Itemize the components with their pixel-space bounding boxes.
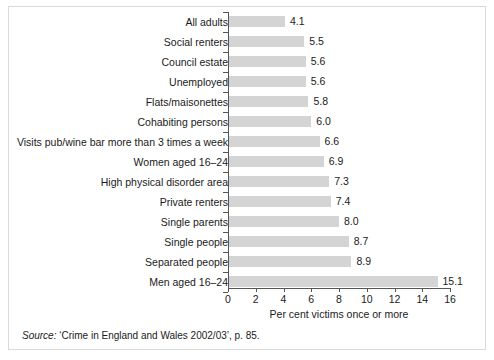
bar: [228, 56, 306, 67]
bar-row: Separated people8.9: [16, 252, 478, 272]
bar-row: Women aged 16–246.9: [16, 152, 478, 172]
y-axis-tick: [223, 152, 228, 153]
bar-value-label: 6.9: [329, 152, 344, 172]
bar-value-label: 6.0: [316, 112, 331, 132]
bar-value-label: 7.3: [334, 172, 349, 192]
y-axis-tick: [223, 172, 228, 173]
category-label: High physical disorder area: [101, 172, 228, 192]
bar-track: 6.6: [228, 132, 478, 152]
bar-row: Social renters5.5: [16, 32, 478, 52]
bar-track: 5.5: [228, 32, 478, 52]
category-label: Visits pub/wine bar more than 3 times a …: [17, 132, 228, 152]
x-axis-tick: [311, 288, 312, 292]
y-axis-tick: [223, 272, 228, 273]
x-axis-tick: [450, 288, 451, 292]
bar-row: Unemployed5.6: [16, 72, 478, 92]
y-axis-tick: [223, 52, 228, 53]
bar-track: 7.4: [228, 192, 478, 212]
bar: [228, 96, 308, 107]
bar: [228, 176, 329, 187]
bar-row: All adults4.1: [16, 12, 478, 32]
chart-figure: All adults4.1Social renters5.5Council es…: [0, 0, 494, 360]
bar-row: Single people8.7: [16, 232, 478, 252]
bar-row: Cohabiting persons6.0: [16, 112, 478, 132]
bar-value-label: 5.5: [309, 32, 324, 52]
bar-track: 5.8: [228, 92, 478, 112]
bar: [228, 36, 304, 47]
bar: [228, 256, 351, 267]
source-label: Source:: [22, 330, 56, 341]
x-axis-tick-label: 6: [308, 293, 314, 305]
category-label: Social renters: [164, 32, 228, 52]
category-label: Council estate: [161, 52, 228, 72]
bar-row: High physical disorder area7.3: [16, 172, 478, 192]
y-axis-tick: [223, 132, 228, 133]
bar-row: Private renters7.4: [16, 192, 478, 212]
bar-rows: All adults4.1Social renters5.5Council es…: [16, 12, 478, 292]
bar: [228, 116, 311, 127]
category-label: All adults: [185, 12, 228, 32]
y-axis-tick: [223, 212, 228, 213]
bar-value-label: 5.6: [311, 52, 326, 72]
x-axis-tick: [367, 288, 368, 292]
bar-row: Single parents8.0: [16, 212, 478, 232]
bar: [228, 136, 320, 147]
category-label: Flats/maisonettes: [146, 92, 228, 112]
bar-value-label: 7.4: [336, 192, 351, 212]
x-axis-tick: [228, 288, 229, 292]
bar-value-label: 8.7: [354, 232, 369, 252]
source-text: ‘Crime in England and Wales 2002/03’, p.…: [56, 330, 259, 341]
bar: [228, 76, 306, 87]
bar: [228, 196, 331, 207]
bar-value-label: 8.0: [344, 212, 359, 232]
category-label: Women aged 16–24: [134, 152, 228, 172]
category-label: Single parents: [161, 212, 228, 232]
bar: [228, 236, 349, 247]
x-axis-tick-label: 8: [336, 293, 342, 305]
bar-value-label: 5.8: [313, 92, 328, 112]
y-axis-tick: [223, 72, 228, 73]
category-label: Separated people: [145, 252, 228, 272]
bar-track: 8.9: [228, 252, 478, 272]
bar-row: Visits pub/wine bar more than 3 times a …: [16, 132, 478, 152]
y-axis-tick: [223, 92, 228, 93]
bar-track: 8.0: [228, 212, 478, 232]
y-axis-tick: [223, 192, 228, 193]
x-axis-tick: [395, 288, 396, 292]
bar-value-label: 4.1: [290, 12, 305, 32]
bar-row: Council estate5.6: [16, 52, 478, 72]
bar-track: 5.6: [228, 52, 478, 72]
bar-track: 4.1: [228, 12, 478, 32]
bar: [228, 216, 339, 227]
bar-value-label: 6.6: [325, 132, 340, 152]
bar: [228, 156, 324, 167]
bar-track: 6.0: [228, 112, 478, 132]
y-axis-tick: [223, 232, 228, 233]
bar-track: 5.6: [228, 72, 478, 92]
x-axis-tick: [339, 288, 340, 292]
y-axis-tick: [223, 32, 228, 33]
x-axis-title: Per cent victims once or more: [228, 308, 450, 320]
bar-value-label: 5.6: [311, 72, 326, 92]
bar: [228, 16, 285, 27]
plot-area: All adults4.1Social renters5.5Council es…: [16, 12, 478, 292]
x-axis-tick-label: 14: [416, 293, 428, 305]
bar-value-label: 8.9: [356, 252, 371, 272]
bar-track: 7.3: [228, 172, 478, 192]
bar-track: 8.7: [228, 232, 478, 252]
x-axis-tick: [284, 288, 285, 292]
x-axis-tick-label: 10: [361, 293, 373, 305]
y-axis-tick: [223, 112, 228, 113]
x-axis-tick-label: 2: [253, 293, 259, 305]
category-label: Cohabiting persons: [138, 112, 228, 132]
bar-row: Flats/maisonettes5.8: [16, 92, 478, 112]
x-axis-tick-label: 4: [281, 293, 287, 305]
x-axis-tick-label: 12: [389, 293, 401, 305]
x-axis-tick-label: 16: [444, 293, 456, 305]
bar-track: 6.9: [228, 152, 478, 172]
x-axis-tick: [256, 288, 257, 292]
category-label: Single people: [164, 232, 228, 252]
x-axis-tick-label: 0: [225, 293, 231, 305]
y-axis-tick: [223, 252, 228, 253]
category-label: Unemployed: [169, 72, 228, 92]
